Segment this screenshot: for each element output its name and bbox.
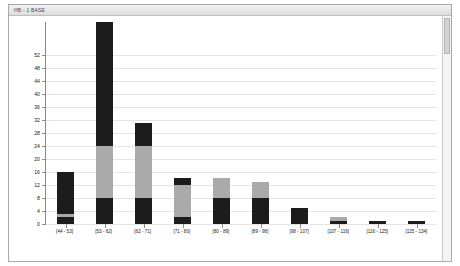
x-axis-label: [62 - 71] (123, 229, 162, 239)
bar-segment-bottom (252, 198, 269, 224)
bar-segment-top (135, 123, 152, 146)
window-titlebar[interactable]: HB - 1 BASE (9, 5, 451, 16)
x-axis-tick (339, 224, 340, 228)
x-axis-label: [80 - 89] (201, 229, 240, 239)
x-axis-tick (66, 224, 67, 228)
y-axis-label: 24 (34, 143, 40, 149)
x-axis-tick (261, 224, 262, 228)
stacked-bar[interactable] (291, 208, 308, 224)
stacked-bar[interactable] (174, 178, 191, 224)
bar-segment-bottom (135, 198, 152, 224)
bar-slot (280, 22, 319, 224)
bar-slot (319, 22, 358, 224)
bar-slot (46, 22, 85, 224)
bar-slot (397, 22, 436, 224)
plot-area: 0481216202428323640444852 (45, 22, 436, 225)
stacked-bar[interactable] (213, 178, 230, 224)
y-axis-label: 12 (34, 182, 40, 188)
x-axis-label: [107 - 116] (319, 229, 358, 239)
bar-segment-middle (135, 146, 152, 198)
bar-slot (241, 22, 280, 224)
stacked-bar[interactable] (135, 123, 152, 224)
bar-segment-bottom (96, 198, 113, 224)
x-axis-label: [44 - 53] (45, 229, 84, 239)
stacked-bar[interactable] (96, 22, 113, 224)
chart-canvas: 0481216202428323640444852 [44 - 53][53 -… (9, 16, 442, 261)
x-axis-tick (300, 224, 301, 228)
bar-segment-top (57, 172, 74, 214)
y-axis-label: 8 (37, 195, 40, 201)
x-axis-tick (144, 224, 145, 228)
bar-segment-middle (213, 178, 230, 198)
bar-slot (358, 22, 397, 224)
bar-segment-middle (96, 146, 113, 198)
chart-window: HB - 1 BASE 0481216202428323640444852 [4… (8, 4, 452, 262)
vertical-scrollbar[interactable] (442, 16, 451, 261)
bar-slot (202, 22, 241, 224)
x-axis-label: [53 - 62] (84, 229, 123, 239)
scrollbar-thumb[interactable] (444, 18, 450, 54)
stacked-bar[interactable] (57, 172, 74, 224)
x-axis-tick (105, 224, 106, 228)
y-axis-label: 44 (34, 78, 40, 84)
x-axis-label: [116 - 125] (358, 229, 397, 239)
x-axis-labels: [44 - 53][53 - 62][62 - 71][71 - 80][80 … (45, 229, 436, 239)
bar-segment-bottom (291, 208, 308, 224)
y-axis-label: 0 (37, 221, 40, 227)
x-axis-tick (378, 224, 379, 228)
y-axis-label: 16 (34, 169, 40, 175)
y-axis-label: 48 (34, 65, 40, 71)
stacked-bar[interactable] (252, 182, 269, 224)
bar-series-group (46, 22, 436, 224)
y-axis-label: 40 (34, 91, 40, 97)
bar-slot (163, 22, 202, 224)
window-title: HB - 1 BASE (14, 5, 45, 16)
x-axis-tick (183, 224, 184, 228)
bar-slot (85, 22, 124, 224)
x-axis-tick (222, 224, 223, 228)
x-axis-label: [125 - 134] (397, 229, 436, 239)
y-axis-label: 4 (37, 208, 40, 214)
x-axis-tick (417, 224, 418, 228)
bar-segment-top (96, 22, 113, 146)
bar-segment-middle (252, 182, 269, 198)
y-axis-label: 52 (34, 52, 40, 58)
x-axis-label: [89 - 98] (240, 229, 279, 239)
y-axis-tick (42, 224, 46, 225)
y-axis-label: 28 (34, 130, 40, 136)
y-axis-label: 32 (34, 117, 40, 123)
y-axis-label: 36 (34, 104, 40, 110)
bar-segment-bottom (213, 198, 230, 224)
y-axis-label: 20 (34, 156, 40, 162)
x-axis-label: [98 - 107] (280, 229, 319, 239)
x-axis-label: [71 - 80] (162, 229, 201, 239)
bar-slot (124, 22, 163, 224)
bar-segment-middle (174, 185, 191, 218)
screenshot-root: HB - 1 BASE 0481216202428323640444852 [4… (0, 0, 460, 266)
